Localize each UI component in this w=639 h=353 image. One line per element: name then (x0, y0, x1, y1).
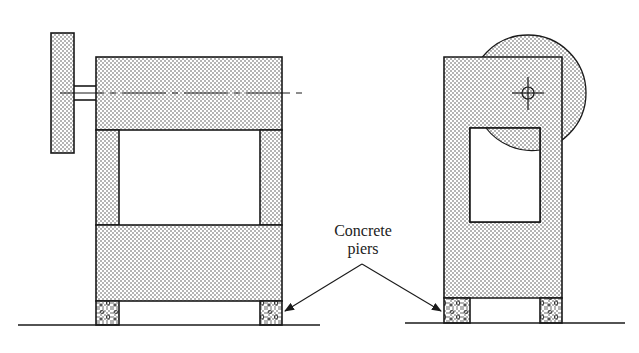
front-view (18, 33, 320, 325)
right-column (260, 130, 282, 225)
left-pier (96, 301, 119, 325)
callout-label-line1: Concrete (334, 222, 392, 239)
machine-foundation-diagram: Concrete piers (0, 0, 639, 353)
concrete-piers-callout: Concrete piers (285, 222, 441, 311)
base-block (96, 225, 282, 301)
leader-arrow-right (362, 264, 441, 311)
leader-arrow-left (285, 264, 362, 311)
right-pier (260, 301, 282, 325)
left-column (96, 130, 119, 225)
side-view (405, 35, 625, 323)
right-pier (540, 298, 562, 323)
callout-label-line2: piers (347, 240, 378, 258)
window-opening (470, 128, 540, 222)
left-pier (444, 298, 470, 323)
